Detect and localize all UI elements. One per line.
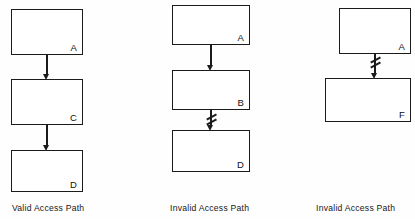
- caption-invalid-access-path: Invalid Access Path: [316, 203, 395, 214]
- node-box-a: A: [11, 9, 83, 55]
- node-label-c: C: [70, 112, 77, 123]
- path-break-icon: [206, 114, 217, 125]
- diagram-column-left: A C D Valid Access Path: [0, 0, 140, 219]
- caption-valid-access-path: Valid Access Path: [12, 203, 84, 214]
- node-label-a: A: [398, 41, 405, 52]
- path-break-icon: [370, 57, 381, 68]
- diagram-column-middle: A B D Invalid Access Path: [140, 0, 285, 219]
- edge-shaft: [46, 125, 48, 145]
- node-label-f: F: [399, 109, 405, 120]
- node-label-a: A: [237, 32, 244, 43]
- node-box-d: D: [11, 150, 83, 192]
- node-label-b: B: [237, 97, 244, 108]
- caption-invalid-access-path: Invalid Access Path: [170, 203, 249, 214]
- node-label-d: D: [70, 179, 77, 190]
- node-box-c: C: [11, 79, 83, 125]
- diagram-column-right: A F Invalid Access Path: [285, 0, 415, 219]
- node-box-d: D: [172, 130, 250, 172]
- node-box-b: B: [172, 70, 250, 110]
- node-box-a: A: [172, 5, 250, 45]
- edge-shaft: [46, 55, 48, 74]
- node-label-d: D: [237, 159, 244, 170]
- access-path-diagram: A C D Valid Access Path A B: [0, 0, 415, 219]
- node-box-f: F: [325, 78, 411, 122]
- node-box-a: A: [339, 8, 411, 54]
- edge-shaft: [210, 45, 212, 65]
- node-label-a: A: [70, 42, 77, 53]
